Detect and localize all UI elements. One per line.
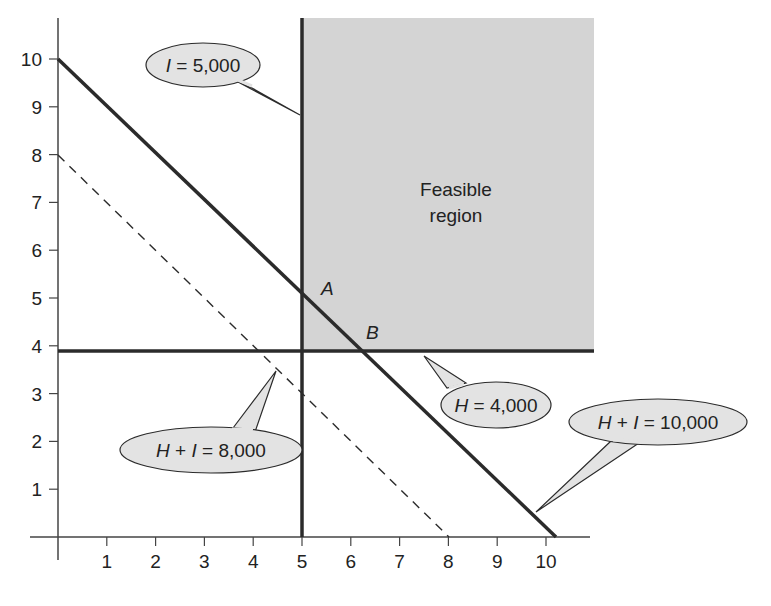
x-tick-label: 8 [443,551,454,572]
callout-h-plus-i-10000: H + I = 10,000 [536,399,747,512]
y-tick-label: 10 [21,49,42,70]
point-b-label: B [366,322,379,343]
callout-i-5000: I = 5,000 [146,43,300,115]
y-tick-label: 2 [31,431,42,452]
feasible-region-label-1: Feasible [420,179,492,200]
x-tick-label: 6 [346,551,357,572]
x-tick-label: 7 [394,551,405,572]
svg-text:H = 4,000: H = 4,000 [455,395,538,416]
y-tick-label: 8 [31,145,42,166]
x-tick-label: 10 [535,551,556,572]
point-a-label: A [320,278,334,299]
x-tick-label: 2 [150,551,161,572]
feasible-region-chart: Feasible region 12345678910 12345678910 … [0,0,771,606]
x-tick-label: 1 [102,551,113,572]
feasible-region-label-2: region [430,205,483,226]
svg-text:I = 5,000: I = 5,000 [166,55,240,76]
x-tick-label: 5 [297,551,308,572]
callout-h-4000: H = 4,000 [424,356,551,428]
y-tick-label: 7 [31,192,42,213]
x-tick-label: 3 [199,551,210,572]
y-tick-label: 4 [31,336,42,357]
y-tick-label: 3 [31,384,42,405]
svg-text:H + I = 8,000: H + I = 8,000 [156,440,266,461]
y-tick-label: 5 [31,288,42,309]
x-tick-label: 4 [248,551,259,572]
x-axis-ticks: 12345678910 [102,537,557,572]
y-tick-label: 9 [31,97,42,118]
callout-h-plus-i-8000: H + I = 8,000 [120,371,302,473]
y-tick-label: 6 [31,240,42,261]
y-tick-label: 1 [31,479,42,500]
y-axis-ticks: 12345678910 [21,49,58,500]
svg-text:H + I = 10,000: H + I = 10,000 [598,412,718,433]
x-tick-label: 9 [492,551,503,572]
